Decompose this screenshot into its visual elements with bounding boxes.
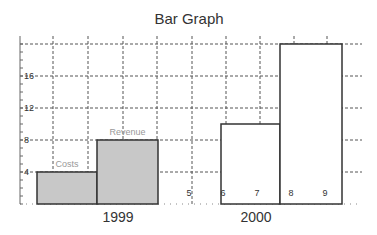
x-tick-label: 7 [254,188,259,198]
bar [97,140,158,204]
bar [37,172,97,204]
group-label: 1999 [102,209,133,225]
x-tick-label: 5 [186,188,191,198]
bar [221,124,280,204]
y-tick-label: 12 [24,103,34,113]
x-tick-label: 8 [288,188,293,198]
bar-label: Revenue [109,127,145,137]
bar-chart: Bar Graph CostsRevenue481216567891999200… [0,0,377,235]
bars [37,44,342,204]
axes [20,36,23,204]
group-label: 2000 [240,209,271,225]
x-tick-label: 6 [220,188,225,198]
bar-label: Costs [55,159,79,169]
bar [280,44,342,204]
y-tick-label: 4 [24,167,29,177]
chart-title: Bar Graph [154,10,223,27]
x-tick-label: 9 [322,188,327,198]
y-tick-label: 8 [24,135,29,145]
y-tick-label: 16 [24,71,34,81]
